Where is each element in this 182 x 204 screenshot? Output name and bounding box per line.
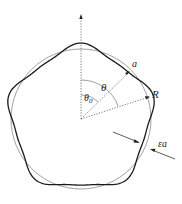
arrow-R <box>145 96 150 99</box>
theta0-subscript: 0 <box>89 97 93 105</box>
label-epsilon-a: εa <box>158 138 167 149</box>
axis-arrowhead <box>79 14 82 19</box>
label-R: R <box>151 88 159 100</box>
label-theta: θ <box>101 81 107 93</box>
diagram: a θ θ0 R εa <box>0 0 182 204</box>
label-a: a <box>132 58 137 69</box>
epsilon-arrow-out-head <box>150 149 156 152</box>
epsilon-arrow-out-line <box>152 150 175 159</box>
label-theta0: θ0 <box>84 92 93 105</box>
epsilon-arrow-in-head <box>134 139 141 143</box>
